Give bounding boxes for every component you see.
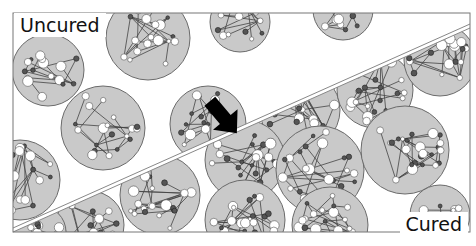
particle [210, 0, 270, 52]
caption-fragment [14, 236, 474, 246]
uncured-label: Uncured [14, 13, 106, 37]
cured-label: Cured [400, 212, 468, 236]
